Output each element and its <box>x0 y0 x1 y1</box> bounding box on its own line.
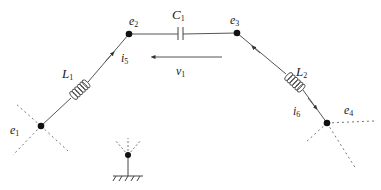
node-e4 <box>324 120 331 127</box>
circuit-diagram: e1 e2 e3 e4 L1 C1 L2 i5 i6 v1 <box>0 0 381 190</box>
node-e2 <box>126 31 133 38</box>
node-e3 <box>234 30 241 37</box>
capacitor-c1-icon <box>178 27 183 40</box>
label-l2: L2 <box>295 64 307 80</box>
label-e2: e2 <box>129 14 138 29</box>
ground-symbol-icon <box>113 155 143 181</box>
label-e1: e1 <box>10 123 19 138</box>
e4-dashed-connections <box>305 121 374 169</box>
l2-upper-arrow-icon <box>253 47 260 53</box>
label-i6: i6 <box>293 104 300 119</box>
label-e4: e4 <box>344 103 353 118</box>
label-v1: v1 <box>176 64 185 79</box>
node-e1 <box>38 123 45 130</box>
current-i5-arrow-icon <box>105 53 113 62</box>
label-i5: i5 <box>121 51 128 66</box>
branch-l2 <box>237 33 327 123</box>
label-e3: e3 <box>230 13 239 28</box>
label-l1: L1 <box>61 66 73 82</box>
current-i6-arrow-icon <box>308 98 316 108</box>
node-ground <box>125 152 131 158</box>
label-c1: C1 <box>172 7 185 23</box>
